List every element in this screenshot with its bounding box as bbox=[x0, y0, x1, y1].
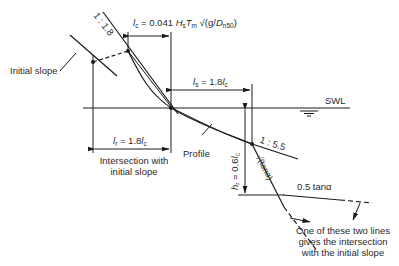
pointer-initial-slope bbox=[60, 53, 76, 71]
footnote-arrow-2 bbox=[353, 203, 360, 220]
intersection-note: Intersection with initial slope bbox=[96, 155, 172, 177]
ls-label: ls = 1.8lc bbox=[193, 76, 228, 90]
lc-formula: lc = 0.041 HsTm √(g/Dn50) bbox=[133, 17, 237, 31]
profile-curve-outer bbox=[128, 51, 252, 144]
swl-label: SWL bbox=[325, 95, 346, 106]
half-tan-line-dashed bbox=[340, 200, 372, 203]
point-swl bbox=[169, 106, 173, 110]
half-tan-label: 0.5 tanα bbox=[297, 181, 332, 192]
profile-label: Profile bbox=[183, 148, 210, 159]
footnote-arrow-1 bbox=[290, 218, 310, 222]
lr-label: lr = 1.8lc bbox=[113, 135, 147, 149]
footnote: One of these two lines gives the interse… bbox=[290, 225, 396, 258]
hr-label: hr = 0.6lc bbox=[229, 153, 243, 190]
half-tan-line bbox=[283, 195, 340, 200]
point-top bbox=[126, 49, 130, 53]
initial-slope-label: Initial slope bbox=[10, 65, 58, 76]
point-lower bbox=[250, 142, 254, 146]
point-initial bbox=[91, 60, 95, 64]
profile-curve bbox=[128, 51, 252, 144]
